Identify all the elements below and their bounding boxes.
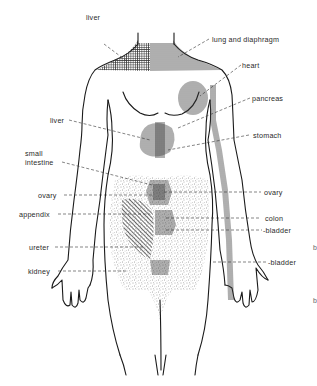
label-pancreas: pancreas [252, 95, 283, 102]
right-side-hatching [210, 85, 234, 300]
label-colon: colon [265, 215, 283, 222]
stray-mark-2: b [313, 297, 317, 304]
label-intestine: intestine [25, 159, 54, 166]
label-liver-shoulder: liver [86, 14, 100, 21]
label-ovary-left: ovary [38, 192, 57, 199]
label-lung-and-diaphragm: lung and diaphragm [212, 36, 279, 43]
label-ureter: ureter [29, 244, 49, 251]
label-heart: heart [242, 62, 259, 69]
heart-referred-area [178, 81, 208, 115]
label-appendix: appendix [19, 211, 50, 218]
label-bladder-upper: -bladder [263, 227, 291, 234]
label-kidney: kidney [28, 268, 50, 275]
stomach-referred-area [140, 122, 175, 158]
label-stomach: stomach [253, 132, 282, 139]
small-intestine-referred-area [146, 180, 172, 205]
label-ovary-right: ovary [264, 189, 283, 196]
label-bladder-lower: -bladder [268, 259, 296, 266]
label-small: small [25, 150, 43, 157]
shoulder-referred-area [97, 40, 222, 71]
stray-mark-1: b [313, 244, 317, 251]
label-liver-back: liver [50, 117, 64, 124]
